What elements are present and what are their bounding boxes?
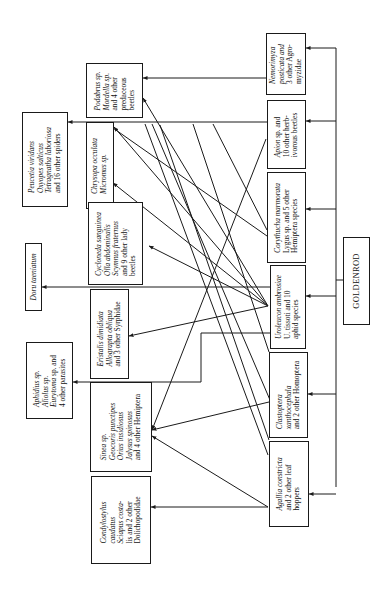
peucetia-box: Peucetia viridans Oxyopes salticus Tetra… [22, 112, 68, 207]
box-text-line: beetles [128, 212, 137, 276]
box-text-line: beetles [127, 71, 136, 110]
box-text-line: Doru taeniatum [29, 253, 38, 300]
box-text-line: Aphidius sp. [32, 355, 41, 407]
uroleucon-box: Uroleucon ambrosiae U. tissoti and 10 ap… [270, 265, 306, 349]
food-web-diagram: GOLDENROD Nemorimyza posticata and 3 oth… [0, 0, 380, 599]
box-text-line: Eristalis dimidiata [97, 301, 106, 366]
aphidius-box: Aphidius sp. Aliolus sp. Eurytoma sp. an… [26, 342, 73, 419]
sinea-box: Sinea sp. Geocoris punctipes Orius insid… [90, 382, 152, 472]
condylostylus-box: Condylostylus caudatus Sciapus costa- li… [91, 476, 151, 564]
box-text-line: aphid species [292, 275, 301, 339]
box-text-line: Scymnus fraternus [111, 212, 120, 276]
podabrus-box: Podabrus sp. Mordella sp. and 4 other pr… [86, 63, 143, 118]
doru-box: Doru taeniatum [25, 243, 42, 311]
goldenrod-label: GOLDENROD [351, 253, 361, 309]
box-text-line: Corythucha marmorata [274, 182, 283, 252]
box-text-line: and 4 other [110, 71, 119, 110]
box-text-line: Cycloneda sanguinea [94, 212, 103, 276]
box-text-rest: sp. and [273, 116, 282, 137]
box-text-line: Eurytoma sp. and [50, 355, 59, 407]
goldenrod-box: GOLDENROD [343, 237, 370, 325]
box-text-line: Hemiptera species [291, 182, 300, 252]
agallia-box: Agallia constricta and 2 other leaf hopp… [269, 441, 309, 527]
genus-text: Apion [273, 139, 282, 157]
box-text-line: and 2 other Homoptera [293, 361, 302, 429]
box-text-line: ivorous beetles [291, 112, 300, 157]
genus-text: Eurytoma [49, 377, 58, 406]
cycloneda-box: Cycloneda sanguinea Olla abdominalis Scy… [88, 202, 143, 285]
box-text-line: Podabrus sp. [93, 71, 102, 110]
nemorimyza-box: Nemorimyza posticata and 3 other Agro- m… [266, 33, 306, 95]
connector-lines [0, 0, 380, 599]
box-text-line: and 3 other Syrphidae [114, 301, 123, 366]
eristalis-box: Eristalis dimidiata Allograpta obliqua a… [90, 289, 129, 379]
box-text-line: Dolichopodidae [134, 496, 143, 543]
chrysopa-box: Chrysopa occulata Micromus sp. [86, 122, 114, 209]
box-text-line: hoppers [293, 457, 302, 510]
box-text-line: Clastoptera [276, 361, 285, 429]
apion-box: Apion sp. and 10 other herb- ivorous bee… [267, 100, 306, 169]
corythucha-box: Corythucha marmorata Lygus sp. and 5 oth… [267, 172, 306, 263]
clastoptera-box: Clastoptera xanthocephala and 2 other Ho… [269, 352, 308, 438]
box-text-rest: sp. and [49, 355, 58, 376]
box-text-line: myzidae [295, 44, 304, 84]
box-text-line: 4 other parasites [58, 355, 67, 407]
box-text-line: Micromus sp. [100, 137, 109, 193]
box-text-line: and 4 other Hemiptera [134, 394, 143, 460]
box-text-line: and 16 other spiders [54, 126, 63, 192]
box-text-line: Apion sp. and [274, 112, 283, 157]
